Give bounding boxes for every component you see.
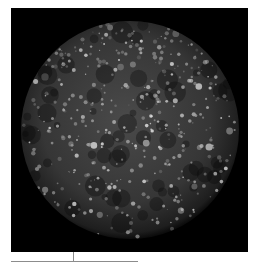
moon-image	[0, 0, 259, 269]
scale-bar-line	[11, 261, 138, 262]
scale-bar-tick	[73, 252, 74, 262]
